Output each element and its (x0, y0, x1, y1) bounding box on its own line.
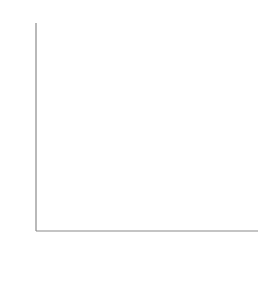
chart-plot-area (0, 0, 273, 289)
